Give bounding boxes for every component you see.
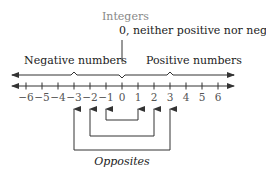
integers-title: Integers [102,10,149,23]
opposite-pairs [74,109,170,150]
tick-label: 6 [215,91,222,103]
tick-label: 5 [199,91,206,103]
zero-note: 0, neither positive nor negative [119,24,266,37]
number-line-diagram: Integers 0, neither positive nor negativ… [0,0,266,175]
tick-label: −5 [34,91,49,103]
tick-label: 2 [151,91,158,103]
negative-numbers-label: Negative numbers [24,54,127,67]
tick-label: −6 [18,91,34,103]
opposites-label: Opposites [94,155,150,168]
tick-label: 1 [135,91,142,103]
tick-label: −4 [50,91,66,103]
tick-label: 0 [119,91,126,103]
tick-label: 3 [167,91,174,103]
brace-line [12,72,234,78]
positive-numbers-label: Positive numbers [146,54,242,67]
tick-label: 4 [183,91,190,103]
tick-label: −3 [66,91,81,103]
tick-label: −1 [98,91,113,103]
tick-label: −2 [82,91,97,103]
